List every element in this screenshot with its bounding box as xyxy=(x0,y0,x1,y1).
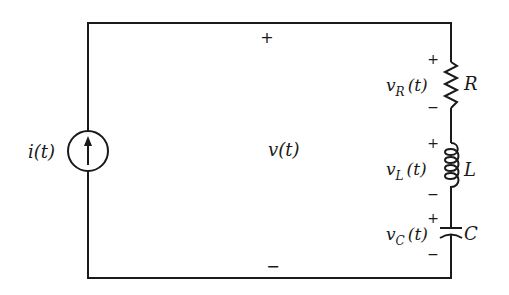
resistor-minus-sign: − xyxy=(427,99,439,115)
resistor-icon xyxy=(445,62,457,108)
arrow-up-icon xyxy=(84,136,92,146)
capacitor-voltage-label: vC(t) xyxy=(386,224,428,248)
circuit-diagram: i(t) + v(t) − R + − vR(t) L + − vL(t) C … xyxy=(0,0,509,295)
overall-minus-sign: − xyxy=(266,257,279,276)
source-label: i(t) xyxy=(28,141,55,162)
resistor-label: R xyxy=(463,73,478,94)
current-source-icon xyxy=(68,131,108,171)
inductor-plus-sign: + xyxy=(427,135,439,151)
capacitor-plus-sign: + xyxy=(427,210,439,226)
inductor-minus-sign: − xyxy=(427,186,439,202)
resistor-plus-sign: + xyxy=(427,51,439,67)
inductor-label: L xyxy=(463,159,476,180)
capacitor-label: C xyxy=(464,223,478,244)
resistor-voltage-label: vR(t) xyxy=(386,75,428,99)
overall-voltage-label: v(t) xyxy=(268,139,299,160)
inductor-voltage-label: vL(t) xyxy=(386,159,427,183)
inductor-icon xyxy=(445,143,459,192)
capacitor-minus-sign: − xyxy=(427,246,439,262)
overall-plus-sign: + xyxy=(260,28,273,47)
